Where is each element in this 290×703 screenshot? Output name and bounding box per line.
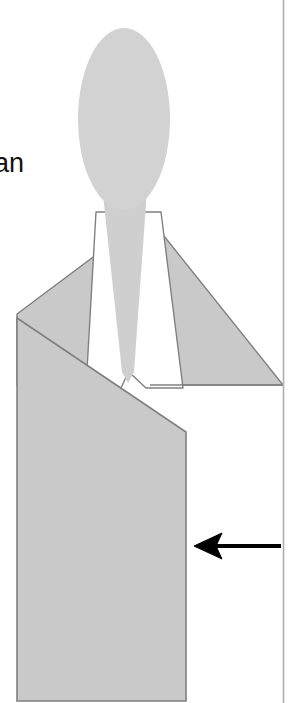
head-ellipse: [78, 28, 170, 210]
person-bust-diagram: [0, 0, 290, 703]
annotation-arrow: [194, 533, 281, 559]
figure-container: an: [0, 0, 290, 703]
partial-text-label: an: [0, 150, 24, 177]
